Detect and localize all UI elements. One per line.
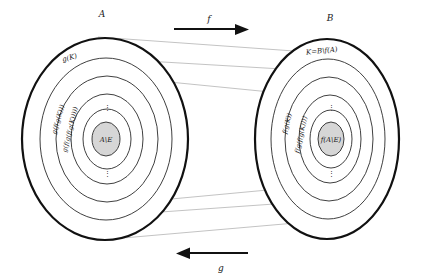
arrow-g-label: g (218, 263, 224, 273)
right-set-name: B (326, 13, 334, 23)
left-set-name: A (98, 9, 106, 19)
diagram-canvas: A B f g g(K) g(f(g(K))) g(f(g(f(g(K)))))… (0, 0, 431, 274)
arrow-f-label: f (206, 14, 212, 24)
arrow-f (174, 24, 249, 35)
arrow-g (176, 248, 248, 260)
right-dots-lower: ⋮ (328, 170, 335, 178)
set-mapping-diagram: A B f g g(K) g(f(g(K))) g(f(g(f(g(K)))))… (0, 0, 431, 274)
arrow-g-head (176, 248, 190, 260)
left-core-label: A\E (99, 136, 113, 144)
right-core-label: f(A\E) (320, 136, 342, 144)
left-dots-lower: ⋮ (104, 170, 111, 178)
arrow-f-head (235, 24, 249, 35)
left-dots-upper: ⋮ (104, 104, 111, 112)
right-dots-upper: ⋮ (328, 104, 335, 112)
